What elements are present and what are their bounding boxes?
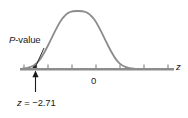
p-value-label: P-value <box>9 35 41 45</box>
z-value-annotation: z = −2.71 <box>17 98 56 108</box>
p-value-label-text: -value <box>15 34 40 45</box>
z-axis-label: z <box>176 62 181 72</box>
pvalue-normal-curve-figure: P-value 0 z z = −2.71 <box>0 0 188 118</box>
z-value-arrow <box>32 71 38 92</box>
x-axis-tick-label-zero: 0 <box>91 76 96 86</box>
z-value-text: = −2.71 <box>22 97 56 108</box>
